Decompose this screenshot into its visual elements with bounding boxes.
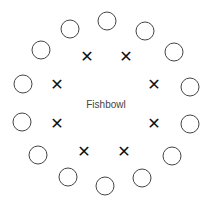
- seat-circle-icon: [98, 12, 117, 31]
- x-mark-icon: ✕: [147, 77, 160, 93]
- x-mark-icon: ✕: [147, 116, 160, 132]
- x-mark-icon: ✕: [50, 116, 63, 132]
- seat-circle-icon: [29, 146, 48, 165]
- seat-circle-icon: [165, 43, 184, 62]
- seat-circle-icon: [61, 20, 80, 39]
- seat-circle-icon: [32, 41, 51, 60]
- center-label: Fishbowl: [86, 99, 125, 110]
- fishbowl-diagram: ✕✕✕✕✕✕✕✕ Fishbowl: [0, 0, 211, 206]
- seat-circle-icon: [59, 168, 78, 187]
- x-mark-icon: ✕: [80, 49, 93, 65]
- seat-circle-icon: [181, 115, 200, 134]
- seat-circle-icon: [136, 22, 155, 41]
- x-mark-icon: ✕: [117, 144, 130, 160]
- seat-circle-icon: [163, 147, 182, 166]
- seat-circle-icon: [14, 75, 33, 94]
- seat-circle-icon: [133, 169, 152, 188]
- seat-circle-icon: [181, 78, 200, 97]
- x-mark-icon: ✕: [77, 144, 90, 160]
- x-mark-icon: ✕: [119, 49, 132, 65]
- seat-circle-icon: [13, 113, 32, 132]
- x-mark-icon: ✕: [50, 77, 63, 93]
- seat-circle-icon: [96, 177, 115, 196]
